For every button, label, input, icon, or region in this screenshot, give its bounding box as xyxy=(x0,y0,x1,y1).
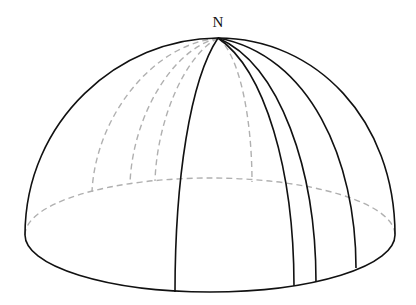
visible-meridian-1 xyxy=(175,38,218,292)
hidden-meridian-2 xyxy=(130,38,218,184)
hidden-meridian-3 xyxy=(155,38,218,181)
hidden-meridian-4 xyxy=(218,38,252,182)
hidden-meridian-1 xyxy=(92,38,218,192)
dome-outline xyxy=(25,38,395,235)
north-pole-label: N xyxy=(213,14,224,30)
base-ellipse-back xyxy=(25,178,395,235)
hemisphere-diagram: N xyxy=(0,0,416,305)
visible-meridian-2 xyxy=(218,38,294,286)
hemisphere-svg: N xyxy=(0,0,416,305)
visible-meridian-3 xyxy=(218,38,316,282)
visible-meridian-4 xyxy=(218,38,356,268)
base-ellipse-front xyxy=(25,235,395,292)
